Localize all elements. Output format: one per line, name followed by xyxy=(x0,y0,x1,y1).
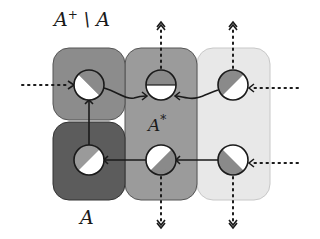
node-n22 xyxy=(146,145,176,175)
arrowhead-up-middle-icon xyxy=(157,22,165,30)
node-n11 xyxy=(74,70,104,100)
node-n23 xyxy=(218,145,248,175)
label-a-plus-minus-a: A+ \ A xyxy=(54,8,110,30)
diagram-canvas: A+ \ A A* A xyxy=(0,0,320,239)
label-a: A xyxy=(80,206,94,228)
label-a-star-sup: * xyxy=(160,113,166,127)
label-a-star: A* xyxy=(148,113,166,135)
arrowhead-up-right-icon xyxy=(229,22,237,30)
node-n13 xyxy=(218,70,248,100)
node-n12 xyxy=(146,70,176,100)
label-minus-a: \ A xyxy=(78,8,110,30)
label-a-plus-base: A xyxy=(54,8,68,30)
label-a-plus-sup: + xyxy=(68,8,78,22)
label-a-star-base: A xyxy=(148,115,160,135)
node-n21 xyxy=(74,145,104,175)
label-a-text: A xyxy=(80,206,94,228)
